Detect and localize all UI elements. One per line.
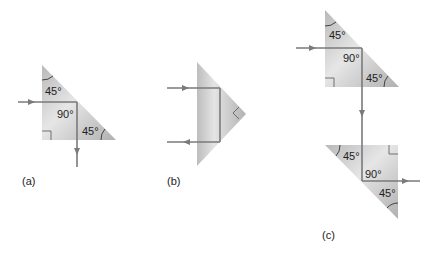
arrow-icon (402, 178, 409, 184)
angle-label-bottom-right: 45° (379, 187, 396, 199)
arrow-icon (74, 148, 80, 155)
angle-label-bottom-right: 45° (366, 72, 383, 84)
panel-b: (b) (167, 62, 246, 187)
angle-label-top: 45° (45, 85, 62, 97)
arrow-icon (182, 85, 189, 91)
arrow-icon (309, 45, 316, 51)
angle-label-right: 90° (365, 168, 382, 180)
angle-label-top-left: 45° (343, 150, 360, 162)
panel-a: 45° 90° 45° (a) (18, 65, 116, 187)
angle-label-top: 45° (329, 29, 346, 41)
angle-label-right: 90° (343, 52, 360, 64)
arrow-icon (28, 99, 35, 105)
panel-c: 45° 90° 45° 45° 90° 45° (c) (296, 10, 420, 241)
caption-b: (b) (167, 175, 180, 187)
arrow-icon (359, 110, 365, 117)
prism-diagram-svg: 45° 90° 45° (a) (b) 45° 90° 45° 45° 90° … (0, 0, 443, 254)
angle-label-bottom-right: 45° (82, 125, 99, 137)
prism-b (197, 62, 246, 166)
caption-a: (a) (22, 175, 35, 187)
arrow-icon (183, 139, 190, 145)
angle-label-right: 90° (57, 108, 74, 120)
prism-diagram: 45° 90° 45° (a) (b) 45° 90° 45° 45° 90° … (0, 0, 443, 254)
caption-c: (c) (322, 229, 335, 241)
